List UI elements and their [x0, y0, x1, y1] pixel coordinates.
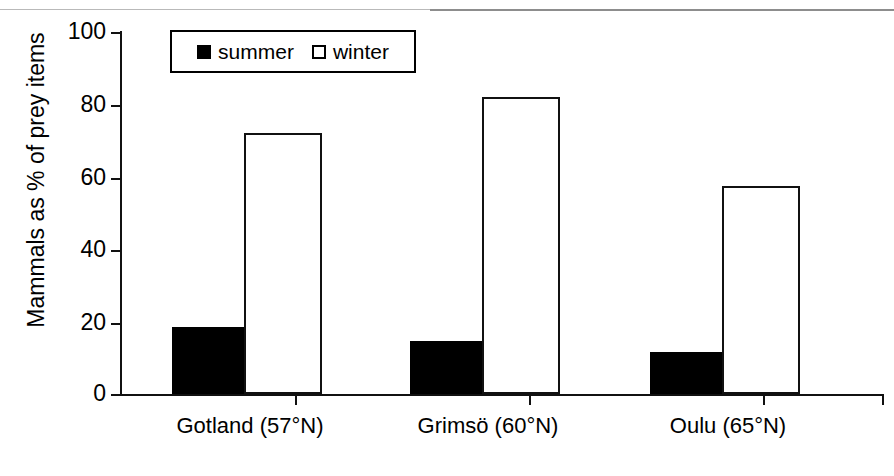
bar-chart-figure: Mammals as % of prey items 100 80 60 40 …: [0, 0, 894, 476]
y-axis-line: [120, 31, 122, 396]
bar-winter-grimso: [482, 97, 560, 394]
x-tick-4: [882, 395, 884, 405]
bar-summer-grimso: [410, 341, 482, 394]
y-tick-80: [111, 105, 122, 107]
y-tick-20: [111, 323, 122, 325]
legend-entry-winter: winter: [312, 41, 389, 62]
x-label-gotland: Gotland (57°N): [130, 414, 370, 438]
y-tick-label-60: 60: [40, 166, 106, 189]
y-tick-label-80: 80: [40, 93, 106, 116]
y-tick-40: [111, 250, 122, 252]
legend-label-winter: winter: [333, 41, 389, 62]
page-top-rule-emphasis: [430, 9, 894, 11]
y-tick-label-40: 40: [40, 238, 106, 261]
y-tick-label-100: 100: [40, 20, 106, 43]
legend-entry-summer: summer: [197, 41, 294, 62]
x-tick-1: [295, 395, 297, 405]
y-tick-0: [111, 394, 122, 396]
x-label-grimso: Grimsö (60°N): [368, 414, 608, 438]
x-tick-2: [529, 395, 531, 405]
y-tick-label-20: 20: [40, 311, 106, 334]
bar-winter-oulu: [722, 186, 800, 394]
x-tick-3: [763, 395, 765, 405]
x-axis-line: [120, 394, 884, 396]
filled-square-marker-icon: [197, 45, 211, 59]
y-tick-60: [111, 178, 122, 180]
bar-summer-gotland: [172, 327, 244, 394]
legend-box: summer winter: [170, 30, 416, 73]
open-square-marker-icon: [312, 45, 326, 59]
bar-summer-oulu: [650, 352, 722, 394]
x-label-oulu: Oulu (65°N): [608, 414, 848, 438]
bar-winter-gotland: [244, 133, 322, 394]
y-tick-label-0: 0: [40, 382, 106, 405]
legend-label-summer: summer: [218, 41, 294, 62]
y-tick-100: [111, 32, 122, 34]
